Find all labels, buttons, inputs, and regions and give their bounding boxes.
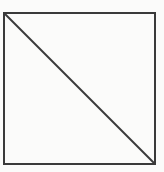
- diagonal-line: [4, 13, 155, 164]
- square-diagonal-diagram: [0, 0, 164, 172]
- diagram-canvas: [0, 0, 164, 172]
